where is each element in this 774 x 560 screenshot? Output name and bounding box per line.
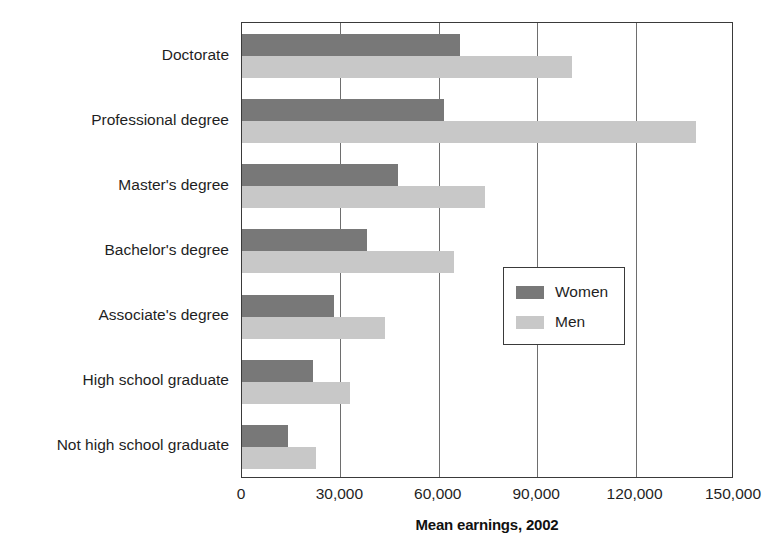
x-axis-ticks: 030,00060,00090,000120,000150,000 (0, 484, 774, 508)
y-axis-label: Master's degree (0, 176, 229, 194)
y-axis-label: Associate's degree (0, 306, 229, 324)
bar-women (242, 360, 313, 382)
bar-women (242, 229, 367, 251)
x-axis-title: Mean earnings, 2002 (241, 516, 733, 533)
bar-group (242, 218, 732, 283)
y-axis-label: High school graduate (0, 371, 229, 389)
legend-item-men[interactable]: Men (516, 307, 624, 337)
bar-group (242, 88, 732, 153)
bar-women (242, 34, 460, 56)
legend-swatch-icon (516, 316, 544, 329)
bar-men (242, 382, 350, 404)
x-axis-tick-label: 30,000 (316, 484, 363, 504)
bar-group (242, 153, 732, 218)
bar-group (242, 414, 732, 479)
y-axis-label: Not high school graduate (0, 436, 229, 454)
bar-men (242, 121, 696, 143)
y-axis-labels: DoctorateProfessional degreeMaster's deg… (0, 22, 229, 478)
y-axis-label: Professional degree (0, 111, 229, 129)
x-axis-tick-label: 120,000 (607, 484, 663, 504)
bar-women (242, 295, 334, 317)
bar-women (242, 164, 398, 186)
chart-legend[interactable]: WomenMen (503, 267, 625, 345)
legend-label: Women (555, 283, 608, 301)
bar-men (242, 447, 316, 469)
plot-area (241, 22, 733, 478)
bar-men (242, 56, 572, 78)
legend-label: Men (555, 313, 585, 331)
y-axis-label: Bachelor's degree (0, 241, 229, 259)
x-axis-tick-label: 0 (237, 484, 246, 504)
bar-chart: DoctorateProfessional degreeMaster's deg… (0, 0, 774, 560)
legend-swatch-icon (516, 286, 544, 299)
x-axis-tick-label: 60,000 (414, 484, 461, 504)
legend-item-women[interactable]: Women (516, 277, 624, 307)
bar-men (242, 317, 385, 339)
bar-women (242, 425, 288, 447)
bar-women (242, 99, 444, 121)
bar-group (242, 284, 732, 349)
x-axis-tick-label: 90,000 (512, 484, 559, 504)
bar-group (242, 23, 732, 88)
x-axis-tick-label: 150,000 (705, 484, 761, 504)
bar-men (242, 186, 485, 208)
bar-men (242, 251, 454, 273)
y-axis-label: Doctorate (0, 46, 229, 64)
bar-group (242, 349, 732, 414)
